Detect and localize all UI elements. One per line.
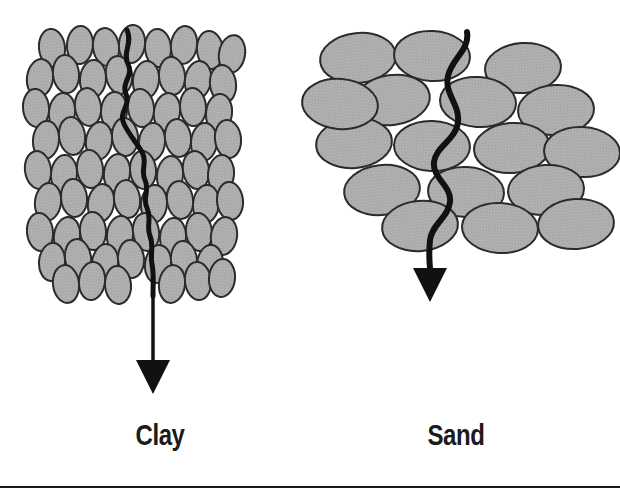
clay-particle-cluster — [21, 24, 248, 305]
clay-panel — [21, 24, 248, 394]
clay-particle — [213, 119, 243, 160]
sand-panel — [300, 29, 620, 302]
clay-particle — [215, 181, 244, 221]
sand-particle-cluster — [300, 29, 620, 255]
permeability-figure: Clay Sand — [0, 0, 620, 496]
bottom-divider-rule — [0, 486, 620, 488]
sand-label: Sand — [376, 420, 536, 450]
clay-flow-arrow-head — [136, 360, 170, 394]
clay-label: Clay — [80, 420, 240, 450]
sand-flow-arrow-head — [413, 268, 447, 302]
